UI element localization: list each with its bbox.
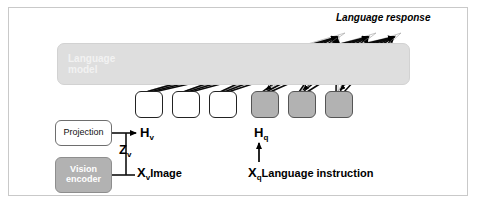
label-x-q-language-instruction: XqLanguage instruction [248, 165, 373, 180]
projection-block[interactable]: Projection [55, 120, 112, 146]
token-box-hq-3[interactable] [325, 91, 353, 118]
label-x-v-text: Image [150, 167, 182, 179]
label-h-v-base: H [140, 125, 149, 140]
label-x-v-subscript: v [146, 173, 150, 182]
token-box-hv-1[interactable] [135, 91, 163, 118]
token-box-hv-2[interactable] [172, 91, 200, 118]
language-model-block[interactable]: Language model [57, 43, 410, 85]
label-x-v-image: XvImage [137, 165, 182, 180]
vision-encoder-block[interactable]: Vision encoder [55, 157, 112, 193]
label-h-v-subscript: v [149, 133, 153, 142]
label-h-q-base: H [254, 125, 263, 140]
label-x-q-subscript: q [257, 173, 262, 182]
vision-encoder-label: Vision encoder [66, 165, 101, 185]
label-z-v: Zv [119, 142, 131, 157]
label-x-q-base: X [248, 165, 257, 180]
label-z-v-base: Z [119, 142, 127, 157]
token-box-hq-1[interactable] [251, 91, 279, 118]
diagram-figure: Language model Projection Vision encoder… [0, 0, 478, 210]
language-model-label: Language model [58, 53, 115, 76]
projection-label: Projection [63, 128, 103, 138]
label-x-q-text: Language instruction [262, 167, 374, 179]
label-language-response: Language response [336, 12, 430, 23]
token-box-hv-3[interactable] [209, 91, 237, 118]
label-h-q-subscript: q [263, 133, 268, 142]
label-z-v-subscript: v [127, 150, 131, 159]
label-h-q: Hq [254, 125, 268, 140]
label-h-v: Hv [140, 125, 154, 140]
label-x-v-base: X [137, 165, 146, 180]
token-box-hq-2[interactable] [288, 91, 316, 118]
